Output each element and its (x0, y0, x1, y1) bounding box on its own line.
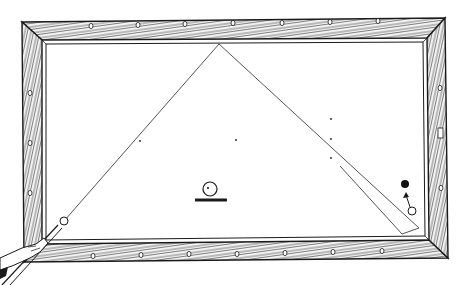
aim-dot (330, 118, 332, 120)
diamond-marker (283, 250, 287, 255)
diamond-marker (235, 251, 239, 256)
rail-marker (438, 128, 443, 138)
object-ball (401, 180, 409, 188)
legend-ball-dot (207, 187, 209, 189)
playing-surface (46, 42, 425, 240)
diamond-marker (376, 18, 380, 23)
diamond-marker (139, 252, 143, 257)
diamond-marker (438, 85, 442, 90)
cue-ball (60, 217, 68, 225)
aim-dot (330, 157, 332, 159)
diamond-marker (380, 248, 384, 253)
aim-dot (330, 138, 332, 140)
diamond-marker (187, 251, 191, 256)
diamond-marker (328, 19, 332, 24)
diamond-marker (28, 90, 32, 95)
diamond-marker (231, 20, 235, 25)
diamond-marker (331, 249, 335, 254)
aim-dot (139, 140, 141, 142)
diamond-marker (280, 20, 284, 25)
aim-dot (235, 139, 237, 141)
diamond-marker (28, 190, 32, 195)
diamond-marker (183, 21, 187, 26)
diamond-marker (89, 23, 93, 28)
legend-ball-icon (203, 182, 217, 196)
target-ball (408, 207, 416, 215)
diamond-marker (28, 140, 32, 145)
diamond-marker (439, 185, 443, 190)
diamond-marker (136, 22, 140, 27)
diamond-marker (91, 253, 95, 258)
rail-right (427, 18, 448, 258)
billiards-diagram (0, 0, 467, 285)
